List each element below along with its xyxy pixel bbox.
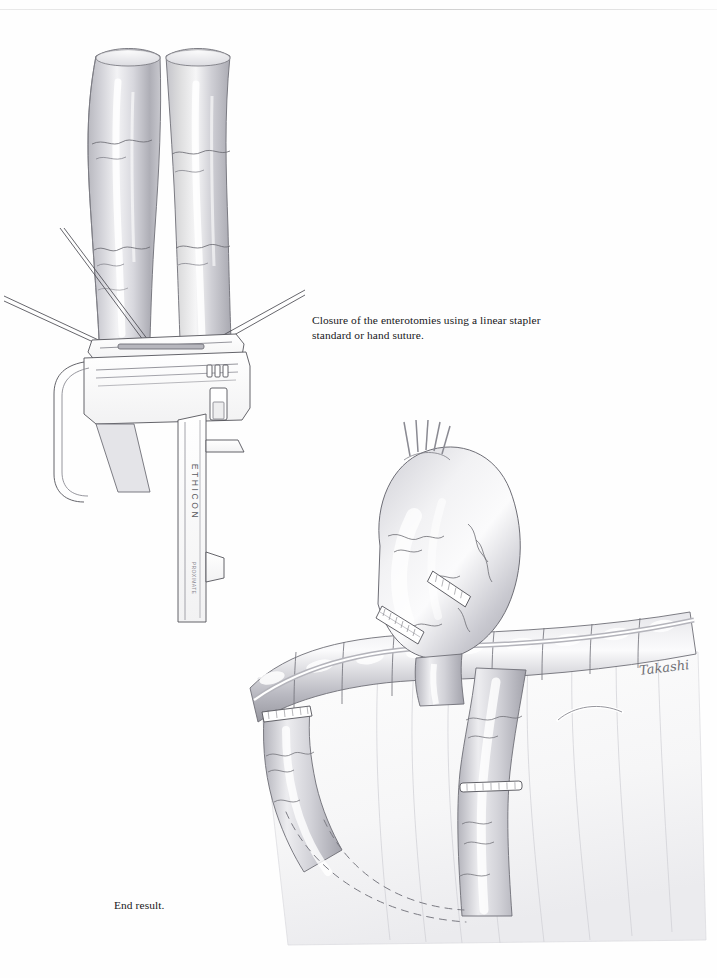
bowel-limb-left	[88, 49, 161, 341]
jejunojejunostomy-staple-line	[460, 781, 522, 792]
atlas-page: ETHICON PROXIMATE	[0, 0, 717, 978]
roux-limb-retrocolic	[415, 654, 464, 706]
caption-end-result: End result.	[114, 898, 294, 913]
device-model-label: PROXIMATE	[191, 562, 197, 595]
device-brand-label: ETHICON	[190, 464, 200, 520]
caption-closure-of-enterotomies: Closure of the enterotomies using a line…	[312, 313, 574, 343]
header-rule	[0, 9, 717, 10]
bowel-limb-right	[166, 49, 231, 341]
gastric-pouch	[376, 420, 520, 659]
figure-end-result: Takashi	[228, 420, 717, 950]
linear-stapler-device	[54, 334, 250, 622]
